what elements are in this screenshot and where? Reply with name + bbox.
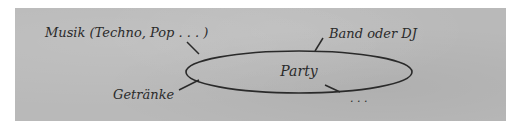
branch-label-getraenke: Getränke xyxy=(113,87,175,102)
center-label: Party xyxy=(279,63,318,79)
spoke-more xyxy=(325,85,340,92)
mind-map-diagram: Party Musik (Techno, Pop . . . ) Band od… xyxy=(0,0,518,129)
branch-label-more: . . . xyxy=(350,92,367,105)
spoke-getraenke xyxy=(179,80,199,90)
branch-label-musik: Musik (Techno, Pop . . . ) xyxy=(44,25,208,40)
branch-label-band: Band oder DJ xyxy=(328,26,418,41)
spoke-musik xyxy=(187,42,199,54)
spoke-band xyxy=(315,38,323,51)
